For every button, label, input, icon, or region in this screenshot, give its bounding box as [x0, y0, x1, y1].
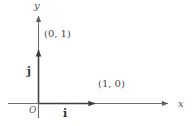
- vector-basis-diagram: y x O (0, 1) (1, 0) j i: [0, 0, 193, 126]
- axes-graphics: [0, 0, 193, 126]
